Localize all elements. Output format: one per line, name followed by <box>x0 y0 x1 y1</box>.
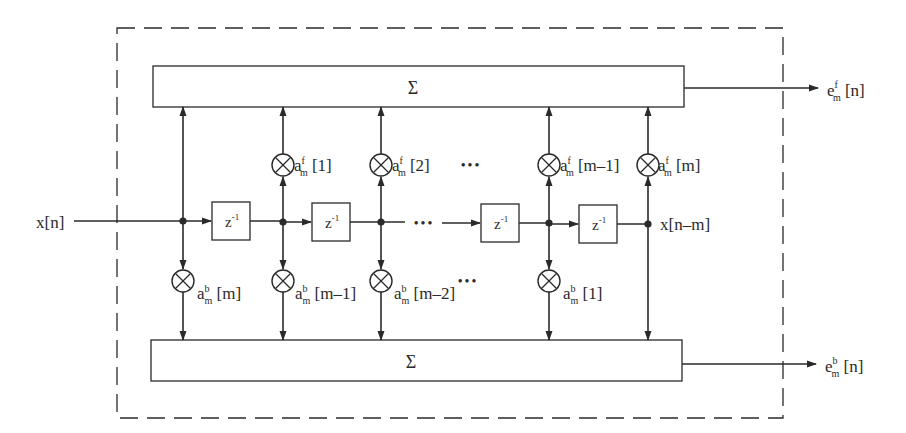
ellipsis-forward-taps: ••• <box>461 158 482 173</box>
backward-coefficient-label: abm [m–1] <box>295 283 356 306</box>
forward-coefficient-label: afm [2] <box>392 155 430 178</box>
multiplier-icon-backward <box>370 270 392 292</box>
multiplier-icon-forward <box>272 154 294 176</box>
backward-error-output-label: ebm [n] <box>825 355 863 379</box>
sigma-icon-bottom: Σ <box>406 352 416 372</box>
junction-node <box>644 220 651 227</box>
delay-block-z-inverse: z-1 <box>579 205 617 243</box>
backward-coefficient-label: abm [m–2] <box>394 283 455 306</box>
forward-coefficient-label: afm [m–1] <box>560 155 619 178</box>
multiplier-icon-forward <box>370 154 392 176</box>
forward-coefficient-label: afm [1] <box>294 155 332 178</box>
junction-node <box>279 218 286 225</box>
forward-error-output-label: efm [n] <box>827 79 865 103</box>
delay-block-z-inverse: z-1 <box>312 203 350 241</box>
multiplier-icon-forward <box>637 154 659 176</box>
input-signal-label: x[n] <box>36 213 64 232</box>
junction-node <box>179 217 186 224</box>
delay-block-z-inverse: z-1 <box>481 204 519 242</box>
sum-block-top: Σ <box>153 66 684 107</box>
ellipsis-backward-taps: ••• <box>458 274 479 289</box>
multiplier-icon-backward <box>172 270 194 292</box>
ellipsis-delay-chain: ••• <box>414 216 435 231</box>
sigma-icon-top: Σ <box>408 78 418 98</box>
backward-coefficient-label: abm [1] <box>563 283 602 306</box>
delay-block-z-inverse: z-1 <box>212 202 250 240</box>
forward-coefficient-label: afm [m] <box>658 155 700 178</box>
multiplier-icon-backward <box>538 270 560 292</box>
lattice-filter-diagram: Σ Σ efm [n] ebm [n] x[n] z-1z-1z-1z-1 ••… <box>0 0 906 433</box>
junction-node <box>377 218 384 225</box>
sum-block-bottom: Σ <box>151 340 682 381</box>
backward-coefficient-label: abm [m] <box>197 283 241 306</box>
multiplier-icon-forward <box>538 154 560 176</box>
junction-node <box>545 219 552 226</box>
multiplier-icon-backward <box>272 270 294 292</box>
delayed-output-label: x[n–m] <box>660 215 710 234</box>
